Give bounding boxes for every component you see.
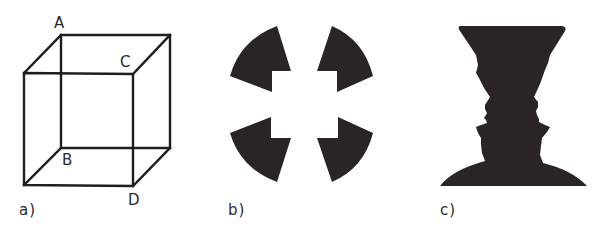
panel-label-a: a) [19, 203, 36, 218]
pacman-top-right [317, 26, 373, 92]
cube-edge [133, 35, 170, 74]
vertex-label-d: D [128, 193, 140, 208]
panel-label-c: c) [440, 203, 456, 218]
panel-label-b: b) [228, 203, 245, 218]
cube-edge [24, 148, 61, 185]
figure-canvas: A C B D a) b) c) [0, 0, 601, 237]
pacman-bottom-right [317, 117, 373, 182]
cube-edge [133, 148, 170, 186]
vertex-label-a: A [54, 16, 64, 31]
vertex-label-c: C [120, 55, 130, 70]
pacman-bottom-left [230, 117, 291, 182]
rubin-vase-silhouette [440, 26, 587, 186]
illusory-square [230, 26, 373, 182]
necker-cube [0, 0, 601, 237]
pacman-top-left [230, 26, 291, 92]
cube-edge [24, 35, 61, 73]
vertex-label-b: B [62, 153, 72, 168]
